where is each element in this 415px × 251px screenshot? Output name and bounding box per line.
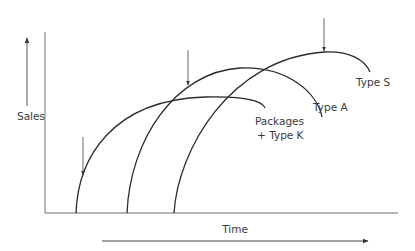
label-type-s: Type S bbox=[355, 76, 390, 88]
product-lifecycle-diagram: Sales Time Type S Type A Packages + Type… bbox=[0, 0, 415, 251]
label-type-k: + Type K bbox=[257, 129, 305, 141]
x-axis-label: Time bbox=[221, 223, 248, 235]
y-axis-label: Sales bbox=[17, 110, 45, 122]
label-packages: Packages bbox=[255, 115, 304, 127]
label-type-a: Type A bbox=[312, 101, 348, 113]
curve-packages-type-k bbox=[76, 97, 265, 213]
